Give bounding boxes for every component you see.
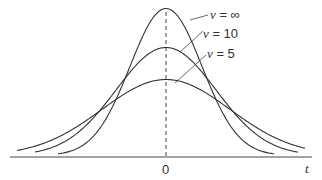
x-tick-zero: 0 (162, 163, 169, 176)
label-v-10: v = 10 (203, 27, 238, 40)
label-v-5: v = 5 (207, 47, 235, 60)
t-distribution-chart (0, 0, 322, 180)
x-axis-label: t (305, 162, 309, 175)
label-v-inf: v = ∞ (210, 8, 240, 21)
leader-v-10 (180, 31, 203, 52)
leader-v-inf (190, 15, 208, 20)
curve-v-5 (17, 80, 305, 151)
